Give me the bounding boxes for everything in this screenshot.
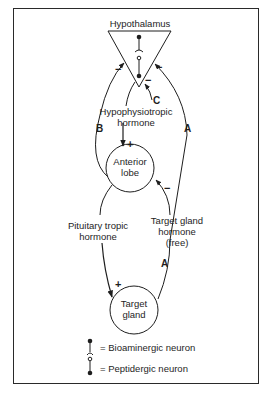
peptidergic-neuron-icon (88, 357, 93, 375)
minus-sign-right: − (156, 62, 162, 73)
feedback-loop-c (145, 84, 152, 100)
legend-bioaminergic: = Bioaminergic neuron (100, 342, 195, 353)
anterior-lobe-label: Anterior lobe (106, 156, 154, 178)
pituitary-tropic-label: Pituitary tropic hormone (58, 220, 138, 242)
target-hormone-line-2: hormone (147, 226, 207, 237)
legend-peptidergic: = Peptidergic neuron (100, 363, 188, 374)
target-gland-hormone-label: Target gland hormone (free) (147, 215, 207, 248)
hypophysiotropic-line-2: hormone (96, 117, 176, 128)
minus-sign-anterior: − (164, 183, 170, 194)
hypophysiotropic-label: Hypophysiotropic hormone (96, 106, 176, 128)
pituitary-tropic-line-2: hormone (58, 231, 138, 242)
hypophysiotropic-outflow-line (126, 82, 135, 106)
anterior-lobe-line-2: lobe (106, 167, 154, 178)
feedback-diagram (0, 0, 268, 394)
target-gland-label: Target gland (110, 298, 158, 320)
target-hormone-line-1: Target gland (147, 215, 207, 226)
hypothalamus-label: Hypothalamus (108, 18, 172, 29)
target-hormone-line-3: (free) (147, 237, 207, 248)
neuron-chain-icon (135, 35, 143, 79)
loop-label-b: B (96, 123, 103, 134)
bioaminergic-neuron-icon (87, 339, 93, 355)
plus-sign-target: + (115, 279, 121, 290)
loop-label-c: C (153, 95, 160, 106)
loop-label-a-lower: A (161, 258, 168, 269)
minus-sign-left: − (115, 64, 121, 75)
minus-sign-tip: − (145, 75, 151, 86)
hypophysiotropic-line-1: Hypophysiotropic (96, 106, 176, 117)
pituitary-tropic-arrow-lower (102, 243, 112, 297)
pituitary-tropic-line-1: Pituitary tropic (58, 220, 138, 231)
loop-label-a-upper: A (184, 123, 191, 134)
anterior-lobe-line-1: Anterior (106, 156, 154, 167)
plus-sign-anterior: + (127, 139, 133, 150)
target-gland-line-2: gland (110, 309, 158, 320)
target-gland-line-1: Target (110, 298, 158, 309)
pituitary-tropic-arrow (100, 185, 112, 215)
